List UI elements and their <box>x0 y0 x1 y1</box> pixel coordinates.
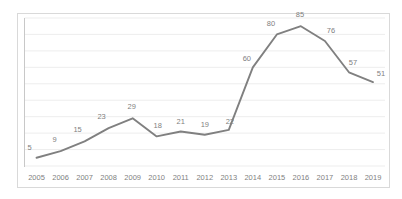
x-tick-label: 2006 <box>52 173 69 182</box>
data-label: 29 <box>128 102 136 111</box>
data-label: 22 <box>226 117 234 126</box>
x-tick-label: 2010 <box>148 173 165 182</box>
line-chart-figure: 5915232918211922608085765751200520062007… <box>0 0 402 199</box>
data-label: 21 <box>177 117 185 126</box>
data-label: 80 <box>267 19 275 28</box>
x-tick-label: 2007 <box>76 173 93 182</box>
data-label: 19 <box>201 120 209 129</box>
data-label: 23 <box>97 112 105 121</box>
data-label: 60 <box>243 54 251 63</box>
x-tick-label: 2016 <box>293 173 310 182</box>
data-label: 9 <box>53 135 57 144</box>
data-label: 5 <box>27 143 31 152</box>
data-label: 15 <box>73 125 81 134</box>
series-line <box>37 26 373 158</box>
x-tick-label: 2005 <box>28 173 45 182</box>
chart-canvas: 5915232918211922608085765751200520062007… <box>0 0 402 199</box>
x-tick-label: 2018 <box>341 173 358 182</box>
x-tick-label: 2008 <box>100 173 117 182</box>
data-labels: 5915232918211922608085765751 <box>27 10 385 152</box>
data-label: 85 <box>296 10 304 19</box>
x-tick-label: 2015 <box>269 173 286 182</box>
x-tick-label: 2009 <box>124 173 141 182</box>
data-label: 57 <box>349 58 357 67</box>
x-tick-label: 2017 <box>317 173 334 182</box>
x-tick-label: 2011 <box>173 173 189 182</box>
data-label: 18 <box>154 121 162 130</box>
data-label: 51 <box>377 69 385 78</box>
x-tick-label: 2019 <box>365 173 382 182</box>
x-tick-label: 2014 <box>244 173 261 182</box>
data-label: 76 <box>327 26 335 35</box>
x-tick-label: 2013 <box>220 173 237 182</box>
x-tick-label: 2012 <box>196 173 213 182</box>
x-axis-tick-labels: 2005200620072008200920102011201220132014… <box>28 173 381 182</box>
